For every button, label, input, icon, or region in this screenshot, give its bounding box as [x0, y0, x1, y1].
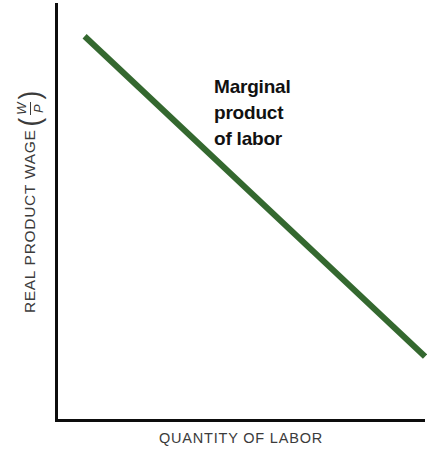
plot-area [0, 0, 427, 455]
y-axis-label: REAL PRODUCT WAGE ( W P ) [13, 22, 47, 382]
annotation-line-2: product [214, 100, 291, 126]
y-axis-label-fraction: ( W P ) [13, 91, 48, 127]
figure-canvas: REAL PRODUCT WAGE ( W P ) QUANTITY OF LA… [0, 0, 427, 455]
y-axis-line [55, 3, 58, 422]
wage-price-fraction: W P [15, 101, 45, 117]
curve-annotation: Marginal product of labor [214, 74, 291, 152]
fraction-numerator: W [15, 101, 30, 117]
y-axis-label-text: REAL PRODUCT WAGE [21, 130, 39, 314]
x-axis-label: QUANTITY OF LABOR [55, 430, 427, 446]
paren-open: ( [15, 118, 45, 127]
annotation-line-1: Marginal [214, 74, 291, 100]
annotation-line-3: of labor [214, 126, 291, 152]
paren-close: ) [15, 91, 45, 100]
x-axis-line [55, 419, 425, 422]
fraction-denominator: P [29, 102, 45, 115]
